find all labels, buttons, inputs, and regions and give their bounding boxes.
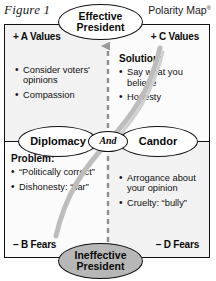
list-item: Honesty: [119, 92, 207, 102]
quadrant-upper-right-header: Solution:: [119, 53, 207, 64]
figure-label: Figure 1: [4, 2, 50, 18]
list-item: Compassion: [15, 90, 103, 100]
quadrant-lower-right-list: Arrogance about your opinion Cruelty: “b…: [119, 173, 211, 208]
right-pole-oval: Candor: [118, 126, 198, 157]
figure-title: Polarity Map®: [148, 4, 211, 16]
quadrant-label-lower-left: – B Fears: [13, 239, 56, 250]
quadrant-label-upper-left: + A Values: [13, 31, 61, 42]
downside-outcome-oval: IneffectivePresident: [58, 243, 143, 279]
upside-outcome-text: EffectivePresident: [77, 11, 125, 32]
quadrant-label-upper-right: + C Values: [151, 31, 199, 42]
downside-outcome-line2: President: [77, 260, 125, 272]
quadrant-upper-left-list: Consider voters' opinions Compassion: [15, 65, 103, 100]
registered-trademark-icon: ®: [207, 5, 211, 11]
quadrant-upper-right-list: Say what you believe Honesty: [119, 67, 207, 102]
list-item: Cruelty: “bully”: [119, 198, 211, 208]
list-item: Dishonesty: “liar”: [11, 182, 105, 192]
upside-outcome-line2: President: [77, 21, 125, 33]
quadrant-label-lower-right: – D Fears: [156, 239, 199, 250]
upside-outcome-oval: EffectivePresident: [58, 4, 143, 40]
list-item: Consider voters' opinions: [15, 65, 103, 86]
polarity-map-figure: Figure 1 Polarity Map® + A Values + C Va…: [0, 0, 216, 281]
quadrant-content-lower-right: Arrogance about your opinion Cruelty: “b…: [119, 173, 211, 212]
list-item: Say what you believe: [119, 67, 207, 88]
list-item: “Politically correct”: [11, 167, 105, 177]
quadrant-content-upper-left: Consider voters' opinions Compassion: [15, 65, 103, 104]
quadrant-lower-left-list: “Politically correct” Dishonesty: “liar”: [11, 167, 105, 192]
quadrant-content-lower-left: Problem: “Politically correct” Dishonest…: [11, 153, 105, 196]
left-pole-oval: Diplomacy: [18, 126, 98, 157]
list-item: Arrogance about your opinion: [119, 173, 211, 194]
downside-outcome-text: IneffectivePresident: [75, 250, 127, 271]
figure-title-text: Polarity Map: [148, 4, 206, 16]
quadrant-content-upper-right: Solution: Say what you believe Honesty: [119, 53, 207, 106]
and-connector-oval: And: [88, 131, 128, 152]
